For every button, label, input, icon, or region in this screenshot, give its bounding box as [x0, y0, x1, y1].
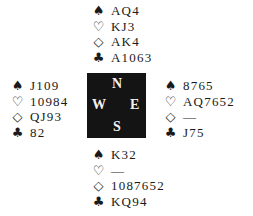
spade-icon: ♠ [92, 3, 105, 19]
west-clubs: 82 [30, 125, 45, 141]
north-clubs: A1063 [111, 50, 152, 66]
south-clubs: KQ94 [111, 194, 148, 210]
east-hearts-row: ♡ AQ7652 [164, 94, 235, 110]
south-diamonds: 1087652 [111, 178, 165, 194]
east-spades: 8765 [183, 78, 214, 94]
compass-north: N [112, 76, 122, 92]
diamond-icon: ◇ [11, 109, 24, 125]
west-clubs-row: ♣ 82 [11, 125, 69, 141]
east-hearts: AQ7652 [183, 94, 235, 110]
south-clubs-row: ♣ KQ94 [92, 194, 165, 210]
heart-icon: ♡ [92, 163, 105, 179]
heart-icon: ♡ [11, 94, 24, 110]
north-diamonds: AK4 [111, 34, 140, 50]
south-hand: ♠ K32 ♡ — ◇ 1087652 ♣ KQ94 [92, 147, 165, 209]
club-icon: ♣ [11, 125, 24, 141]
west-hearts-row: ♡ 10984 [11, 94, 69, 110]
north-hearts-row: ♡ KJ3 [92, 19, 152, 35]
club-icon: ♣ [92, 50, 105, 66]
south-spades: K32 [111, 147, 137, 163]
east-hand: ♠ 8765 ♡ AQ7652 ◇ — ♣ J75 [164, 78, 235, 140]
heart-icon: ♡ [164, 94, 177, 110]
east-clubs-row: ♣ J75 [164, 125, 235, 141]
diamond-icon: ◇ [164, 109, 177, 125]
west-diamonds: QJ93 [30, 109, 62, 125]
east-spades-row: ♠ 8765 [164, 78, 235, 94]
east-diamonds-row: ◇ — [164, 109, 235, 125]
club-icon: ♣ [92, 194, 105, 210]
south-spades-row: ♠ K32 [92, 147, 165, 163]
west-spades: J109 [30, 78, 59, 94]
north-clubs-row: ♣ A1063 [92, 50, 152, 66]
diamond-icon: ◇ [92, 34, 105, 50]
west-spades-row: ♠ J109 [11, 78, 69, 94]
south-hearts: — [111, 163, 125, 179]
spade-icon: ♠ [11, 78, 24, 94]
heart-icon: ♡ [92, 19, 105, 35]
east-clubs: J75 [183, 125, 205, 141]
north-spades-row: ♠ AQ4 [92, 3, 152, 19]
club-icon: ♣ [164, 125, 177, 141]
north-hand: ♠ AQ4 ♡ KJ3 ◇ AK4 ♣ A1063 [92, 3, 152, 65]
compass-east: E [130, 97, 139, 113]
north-diamonds-row: ◇ AK4 [92, 34, 152, 50]
spade-icon: ♠ [92, 147, 105, 163]
spade-icon: ♠ [164, 78, 177, 94]
east-diamonds: — [183, 109, 197, 125]
diamond-icon: ◇ [92, 178, 105, 194]
north-hearts: KJ3 [111, 19, 136, 35]
compass-south: S [113, 119, 121, 135]
south-hearts-row: ♡ — [92, 163, 165, 179]
compass-table: N W E S [87, 73, 146, 138]
compass-west: W [92, 97, 106, 113]
west-diamonds-row: ◇ QJ93 [11, 109, 69, 125]
west-hand: ♠ J109 ♡ 10984 ◇ QJ93 ♣ 82 [11, 78, 69, 140]
south-diamonds-row: ◇ 1087652 [92, 178, 165, 194]
west-hearts: 10984 [30, 94, 69, 110]
north-spades: AQ4 [111, 3, 140, 19]
